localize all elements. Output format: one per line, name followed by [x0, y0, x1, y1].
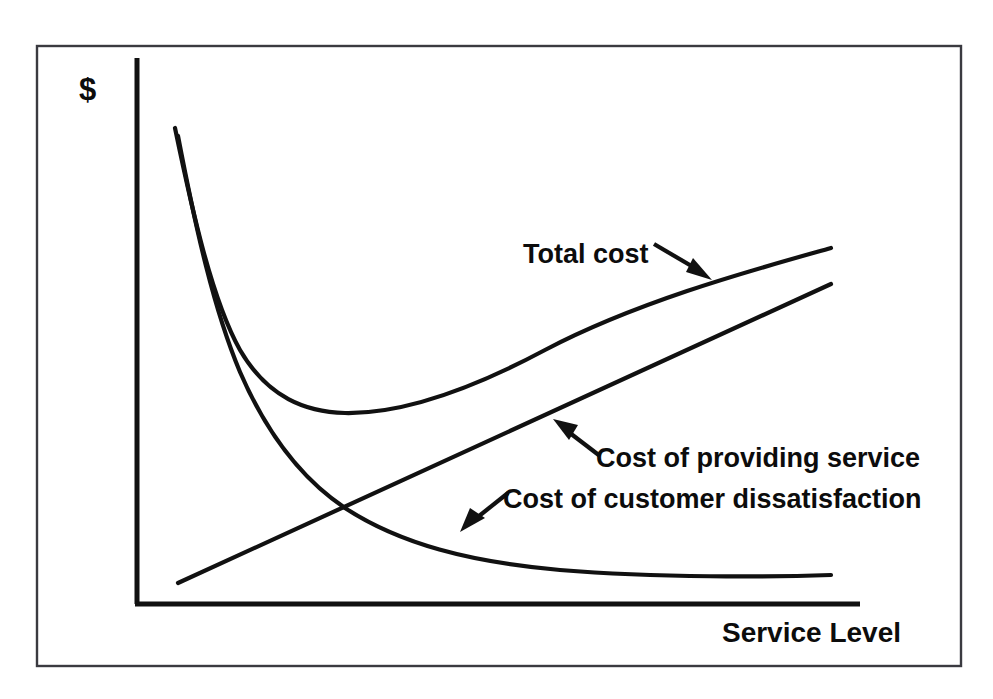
chart-canvas: $ Service Level Total cost Cost of provi…	[0, 0, 993, 699]
service-level-cost-chart: $ Service Level Total cost Cost of provi…	[0, 0, 993, 699]
arrow-customer-dissatisfaction	[460, 493, 508, 532]
annotation-total-cost: Total cost	[523, 239, 649, 269]
arrow-providing-service	[553, 419, 600, 456]
annotation-customer-dissatisfaction: Cost of customer dissatisfaction	[503, 484, 922, 514]
arrow-total-cost	[654, 244, 712, 280]
y-axis-label: $	[79, 72, 96, 107]
annotation-providing-service: Cost of providing service	[596, 443, 920, 473]
curve-providing-service	[178, 284, 831, 583]
curve-total-cost	[175, 128, 831, 413]
x-axis-label: Service Level	[722, 617, 901, 648]
